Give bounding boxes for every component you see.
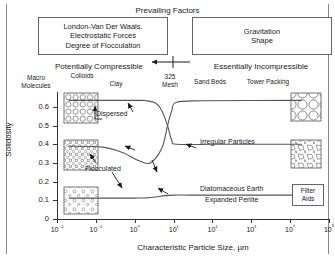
y-tick bbox=[53, 107, 57, 108]
x-tick-label: 10³ bbox=[236, 224, 266, 233]
x-tick-label: 10⁰ bbox=[120, 224, 150, 233]
curve-dispersed bbox=[69, 100, 302, 144]
x-tick bbox=[96, 219, 97, 223]
y-tick bbox=[53, 126, 57, 127]
y-tick bbox=[53, 200, 57, 201]
y-axis-line bbox=[57, 92, 58, 220]
swatch-filter-aid-particles bbox=[64, 187, 98, 214]
y-tick bbox=[53, 144, 57, 145]
x-tick-label: 10¹ bbox=[159, 224, 189, 233]
y-tick-label: 0.4 bbox=[27, 139, 49, 148]
material-colloids: Colloids bbox=[58, 72, 106, 80]
annotation-diatomaceous-earth: Diatomaceous Earth bbox=[200, 185, 263, 193]
filter-aids-line-1: Filter bbox=[301, 187, 315, 195]
leader-filter-aids bbox=[158, 188, 168, 194]
material-macro-molecules: Macro Molecules bbox=[12, 74, 60, 89]
x-tick-label: 10² bbox=[197, 224, 227, 233]
swatch-irregular bbox=[291, 140, 321, 168]
y-tick-label: 0.5 bbox=[27, 121, 49, 130]
material-sand-beds: Sand Beds bbox=[188, 78, 232, 86]
annotation-flocculated: Flocculated bbox=[85, 165, 121, 173]
x-tick bbox=[212, 219, 213, 223]
potentially-compressible-label: Potentially Compressible bbox=[24, 62, 174, 71]
x-tick bbox=[57, 219, 58, 223]
x-tick-label: 10⁻² bbox=[42, 224, 72, 233]
y-tick-label: 0.3 bbox=[27, 158, 49, 167]
right-factors-line-1: Gravitation bbox=[244, 27, 280, 36]
x-tick-label: 10⁻¹ bbox=[81, 224, 111, 233]
x-tick bbox=[174, 219, 175, 223]
x-tick bbox=[135, 219, 136, 223]
macro-line-1: Macro bbox=[12, 74, 60, 82]
y-tick-label: 0.2 bbox=[27, 177, 49, 186]
annotation-irregular-particles: Irregular Particles bbox=[200, 138, 255, 146]
leader-dispersed-upper bbox=[128, 103, 133, 112]
macro-line-2: Molecules bbox=[12, 82, 60, 90]
swatch-spheres bbox=[291, 93, 321, 121]
mesh-line-1: 325 bbox=[155, 73, 185, 81]
leader-flocculated-c bbox=[125, 146, 135, 150]
x-tick bbox=[290, 219, 291, 223]
leader-flocculated-a bbox=[90, 154, 96, 163]
left-factors-line-1: London-Van Der Waals. bbox=[63, 22, 142, 31]
x-tick-label: 10⁴ bbox=[275, 224, 305, 233]
filter-aids-box-text: Filter Aids bbox=[292, 184, 324, 206]
prevailing-factors-title: Prevailing Factors bbox=[0, 6, 335, 15]
material-325-mesh: 325 Mesh bbox=[155, 73, 185, 88]
y-axis-title: Solidosity bbox=[4, 110, 13, 170]
y-tick bbox=[53, 182, 57, 183]
x-axis-title: Characteristic Particle Size, µm bbox=[57, 243, 329, 252]
right-factors-box-text: Gravitation Shape bbox=[192, 17, 332, 55]
y-tick-label: 0.1 bbox=[27, 195, 49, 204]
leader-irregular-a bbox=[186, 144, 196, 148]
mesh-line-2: Mesh bbox=[155, 81, 185, 89]
filter-aids-line-2: Aids bbox=[302, 195, 315, 203]
leader-flocculated-b bbox=[112, 172, 122, 188]
y-tick-label: 0 bbox=[27, 214, 49, 223]
annotation-dispersed: Dispersed bbox=[96, 110, 128, 118]
material-tower-packing: Tower Packing bbox=[238, 78, 298, 86]
essentially-incompressible-label: Essentially Incompressible bbox=[186, 62, 335, 71]
left-factors-line-3: Degree of Flocculation bbox=[65, 41, 140, 50]
annotation-expanded-perlite: Expanded Perlite bbox=[205, 196, 258, 204]
left-factors-box-text: London-Van Der Waals. Electrostatic Forc… bbox=[38, 17, 168, 55]
swatch-macro-molecules bbox=[64, 93, 98, 123]
x-tick bbox=[329, 219, 330, 223]
leader-irregular-b bbox=[152, 160, 157, 172]
material-clay: Clay bbox=[96, 80, 136, 88]
curve-filter-aids bbox=[69, 195, 302, 198]
x-tick-label: 10⁵ bbox=[314, 224, 335, 233]
right-factors-line-2: Shape bbox=[251, 36, 273, 45]
x-tick bbox=[251, 219, 252, 223]
figure-root: Prevailing Factors London-Van Der Waals.… bbox=[0, 0, 335, 265]
x-axis-line bbox=[57, 219, 329, 220]
y-tick bbox=[53, 163, 57, 164]
left-factors-line-2: Electrostatic Forces bbox=[70, 31, 136, 40]
y-tick-label: 0.6 bbox=[27, 102, 49, 111]
